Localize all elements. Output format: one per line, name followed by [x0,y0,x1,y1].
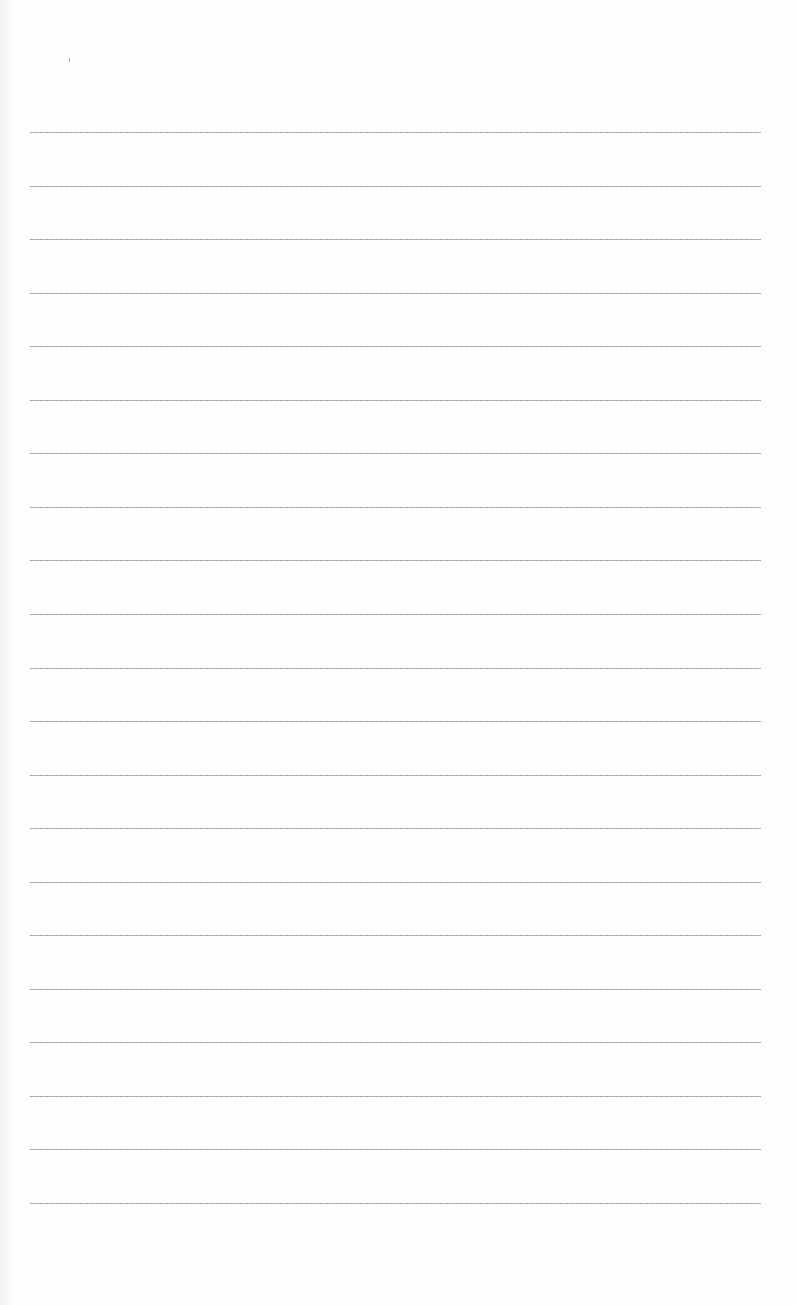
ruled-line [30,453,761,454]
ruled-line [30,400,761,401]
ruled-line [30,1096,761,1097]
paper-speck [69,58,70,62]
ruled-line [30,293,761,294]
ruled-line [30,239,761,240]
ruled-line [30,1203,761,1204]
ruled-line [30,560,761,561]
ruled-line [30,186,761,187]
ruled-line [30,882,761,883]
ruled-line [30,828,761,829]
ruled-line [30,668,761,669]
lined-paper-page [0,0,797,1305]
ruled-line [30,132,761,133]
ruled-line [30,935,761,936]
ruled-line [30,614,761,615]
ruled-line [30,1149,761,1150]
ruled-line [30,775,761,776]
ruled-line [30,507,761,508]
ruled-line [30,1042,761,1043]
ruled-line [30,989,761,990]
ruled-line [30,346,761,347]
ruled-line [30,721,761,722]
page-edge-shadow [0,0,14,1305]
